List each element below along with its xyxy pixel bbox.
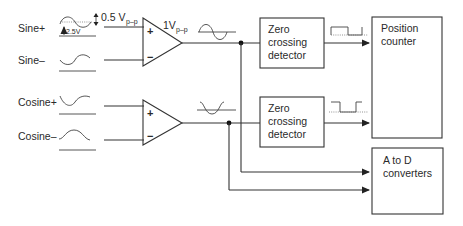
zcd2-line1: Zero [268,102,290,114]
sine-minus-label: Sine– [18,54,45,66]
input-amplitude-sub: p–p [126,18,138,26]
zcd1-line1: Zero [268,23,290,35]
position-counter-line1: Position [381,22,419,34]
adc-line2: converters [383,167,432,179]
amplitude-arrow-up-icon [94,13,99,17]
cosine-plus-label: Cosine+ [18,96,57,108]
cosine-output-waveform-icon [200,102,224,114]
zero-crossing-detector-1: Zero crossing detector [260,18,324,68]
cosine-minus-label: Cosine– [18,130,57,142]
amplitude-arrow-down-icon [94,22,99,26]
cosine-plus-waveform-icon [60,96,90,105]
output-amplitude-label: 1V [163,19,176,31]
sine-plus-label: Sine+ [18,22,45,34]
adc-block: A to D converters [372,148,443,214]
zcd2-line3: detector [268,128,306,140]
amp2-minus-sign: − [147,130,153,142]
sine-minus-waveform-icon [60,55,90,65]
zero-crossing-detector-2: Zero crossing detector [260,97,324,147]
amp1-minus-sign: − [147,51,153,63]
input-amplitude-label: 0.5 V [101,11,126,23]
differential-amplifier-cosine: + − [143,100,182,145]
cosine-plus-input: Cosine+ [18,96,144,114]
cosine-minus-input: Cosine– [18,130,144,150]
encoder-interface-diagram: Sine+ 2.5V 0.5 V p–p Sine– + − 1V p–p Co… [0,0,463,226]
position-counter-line2: counter [381,35,417,47]
output-amplitude-sub: p–p [176,26,188,34]
sine-minus-input: Sine– [18,54,144,71]
square-wave-1-icon [331,27,362,35]
position-counter-block: Position counter [372,17,442,138]
zcd1-line2: crossing [268,36,307,48]
amp2-plus-sign: + [147,107,153,119]
cosine-minus-waveform-icon [59,130,90,140]
sine-plus-input: Sine+ 2.5V 0.5 V p–p [18,11,144,36]
zcd2-line2: crossing [268,115,307,127]
offset-label: 2.5V [66,28,81,35]
square-wave-2-icon [331,102,362,112]
amp1-plus-sign: + [147,25,153,37]
zcd1-line3: detector [268,49,306,61]
adc-line1: A to D [383,154,412,166]
